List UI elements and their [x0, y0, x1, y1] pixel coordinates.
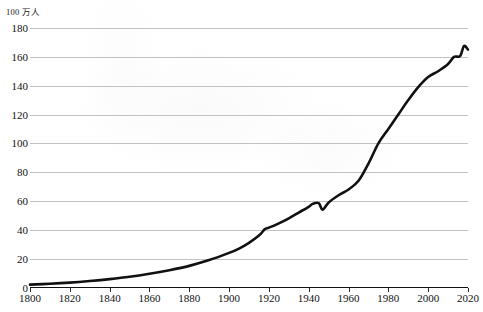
- gridlines: [30, 29, 468, 260]
- x-tick-label: 1960: [338, 293, 360, 304]
- population-series-line: [30, 46, 468, 285]
- x-tick-label: 1860: [138, 293, 160, 304]
- x-tick-label: 2020: [457, 293, 479, 304]
- x-axis-ticks: [31, 288, 469, 292]
- x-tick-label: 1920: [258, 293, 280, 304]
- population-line-chart: 100 万人 020406080100120140160180 18001820…: [0, 0, 483, 312]
- x-tick-label: 1800: [19, 293, 41, 304]
- x-tick-label: 2000: [417, 293, 439, 304]
- x-tick-label: 1880: [178, 293, 200, 304]
- x-tick-label: 1900: [218, 293, 240, 304]
- x-tick-label: 1980: [377, 293, 399, 304]
- x-tick-label: 1940: [298, 293, 320, 304]
- x-tick-label: 1820: [59, 293, 81, 304]
- plot-area: [0, 0, 483, 312]
- x-axis-tick-labels: 1800182018401860188019001920194019601980…: [0, 293, 483, 309]
- x-tick-label: 1840: [99, 293, 121, 304]
